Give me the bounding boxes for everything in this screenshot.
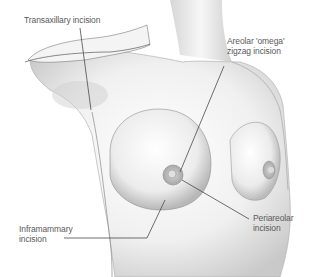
left-breast bbox=[110, 109, 211, 210]
periareolar-label: Periareolar incision bbox=[253, 213, 293, 233]
right-breast bbox=[230, 122, 280, 200]
breast-incision-diagram: Transaxillary incision Areolar 'omega' z… bbox=[0, 0, 312, 277]
neck bbox=[170, 0, 232, 62]
left-nipple bbox=[168, 170, 176, 178]
areolar-omega-label: Areolar 'omega' zigzag incision bbox=[227, 36, 285, 56]
transaxillary-label: Transaxillary incision bbox=[24, 15, 100, 25]
inframammary-label: Inframammary incision bbox=[19, 224, 73, 244]
right-nipple bbox=[268, 167, 274, 173]
